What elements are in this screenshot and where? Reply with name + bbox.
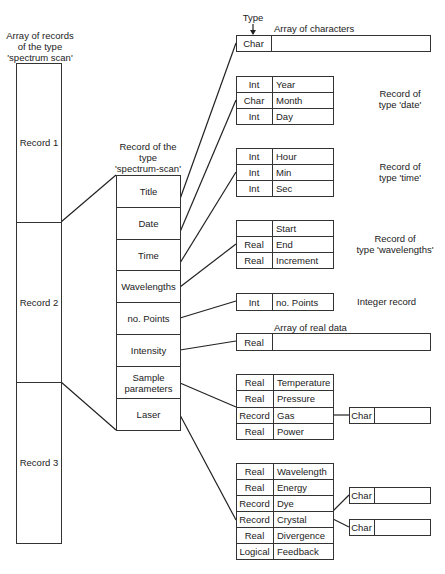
field-intensity: Intensity [116, 335, 181, 366]
time-name-hour: Hour [272, 148, 334, 164]
time-type-hour: Int [236, 148, 272, 164]
laser-name-energy: Energy [273, 479, 334, 495]
date-name-day: Day [272, 108, 334, 124]
laser-type-divergence: Real [236, 527, 273, 543]
wavelengths-caption-line: type 'wavelengths' [345, 244, 445, 255]
field-time: Time [116, 240, 181, 270]
time-caption-line: Record of [360, 161, 440, 172]
field-date: Date [116, 208, 181, 239]
record-caption-line: type [100, 152, 196, 163]
divider [374, 487, 375, 504]
sample-type-gas: Record [236, 407, 273, 423]
record-caption-line: 'spectrum-scan' [100, 163, 196, 174]
real-type: Real [236, 333, 272, 351]
laser-type-dye: Record [236, 495, 273, 511]
field-wavelengths: Wavelengths [116, 271, 181, 302]
field-sample-line: Sample [132, 372, 164, 383]
points-type: Int [236, 293, 272, 311]
wl-name-end: End [272, 236, 334, 252]
sample-type-temperature: Real [236, 374, 273, 390]
array-caption-line: Array of records [0, 30, 80, 41]
laser-name-feedback: Feedback [273, 543, 334, 559]
time-type-sec: Int [236, 180, 272, 196]
wl-type-end: Real [236, 236, 272, 252]
date-caption-line: type 'date' [360, 99, 440, 110]
record-1: Record 1 [16, 135, 62, 149]
wl-type-start [236, 220, 272, 236]
array-caption-line: of the type [0, 41, 80, 52]
date-caption-line: Record of [360, 88, 440, 99]
title-block-caption: Array of characters [274, 23, 354, 34]
sample-name-power: Power [273, 423, 334, 439]
time-name-sec: Sec [272, 180, 334, 196]
laser-name-dye: Dye [273, 495, 334, 511]
divider [272, 333, 273, 351]
field-sample-line: parameters [124, 383, 172, 394]
time-name-min: Min [272, 164, 334, 180]
divider [16, 222, 62, 223]
array-caption: Array of records of the type 'spectrum s… [0, 30, 80, 63]
time-caption-line: type 'time' [360, 172, 440, 183]
time-type-min: Int [236, 164, 272, 180]
divider [16, 382, 62, 383]
wl-name-start: Start [272, 220, 334, 236]
field-no-points: no. Points [116, 303, 181, 334]
sample-name-temperature: Temperature [273, 374, 334, 390]
date-type-month: Char [236, 92, 272, 108]
intensity-caption: Array of real data [274, 322, 347, 333]
laser-type-wavelength: Real [236, 463, 273, 479]
sample-type-power: Real [236, 423, 273, 439]
laser-type-crystal: Record [236, 511, 273, 527]
dye-char-type: Char [349, 487, 374, 504]
sample-type-pressure: Real [236, 390, 273, 407]
wl-name-increment: Increment [272, 252, 334, 268]
gas-char-type: Char [349, 407, 374, 424]
points-caption: Integer record [357, 296, 416, 307]
divider [374, 407, 375, 424]
laser-name-crystal: Crystal [273, 511, 334, 527]
crystal-char-type: Char [349, 519, 374, 536]
type-pointer-label: Type [241, 12, 265, 23]
laser-name-divergence: Divergence [273, 527, 334, 543]
record-3: Record 3 [16, 455, 62, 469]
date-caption: Record of type 'date' [360, 88, 440, 110]
laser-type-energy: Real [236, 479, 273, 495]
laser-type-feedback: Logical [236, 543, 273, 559]
time-caption: Record of type 'time' [360, 161, 440, 183]
wl-type-increment: Real [236, 252, 272, 268]
laser-name-wavelength: Wavelength [273, 463, 334, 479]
wavelengths-caption: Record of type 'wavelengths' [345, 233, 445, 255]
field-laser: Laser [116, 399, 181, 430]
field-title: Title [116, 176, 181, 207]
points-name: no. Points [272, 293, 334, 311]
wavelengths-caption-line: Record of [345, 233, 445, 244]
date-name-month: Month [272, 92, 334, 108]
record-caption: Record of the type 'spectrum-scan' [100, 141, 196, 174]
date-type-year: Int [236, 76, 272, 92]
date-name-year: Year [272, 76, 334, 92]
sample-name-gas: Gas [273, 407, 334, 423]
divider [271, 35, 272, 52]
date-type-day: Int [236, 108, 272, 124]
array-caption-line: 'spectrum scan' [0, 52, 80, 63]
char-type: Char [236, 35, 271, 52]
sample-name-pressure: Pressure [273, 390, 334, 407]
record-caption-line: Record of the [100, 141, 196, 152]
field-sample-parameters: Sample parameters [116, 367, 181, 398]
divider [374, 519, 375, 536]
record-2: Record 2 [16, 295, 62, 309]
